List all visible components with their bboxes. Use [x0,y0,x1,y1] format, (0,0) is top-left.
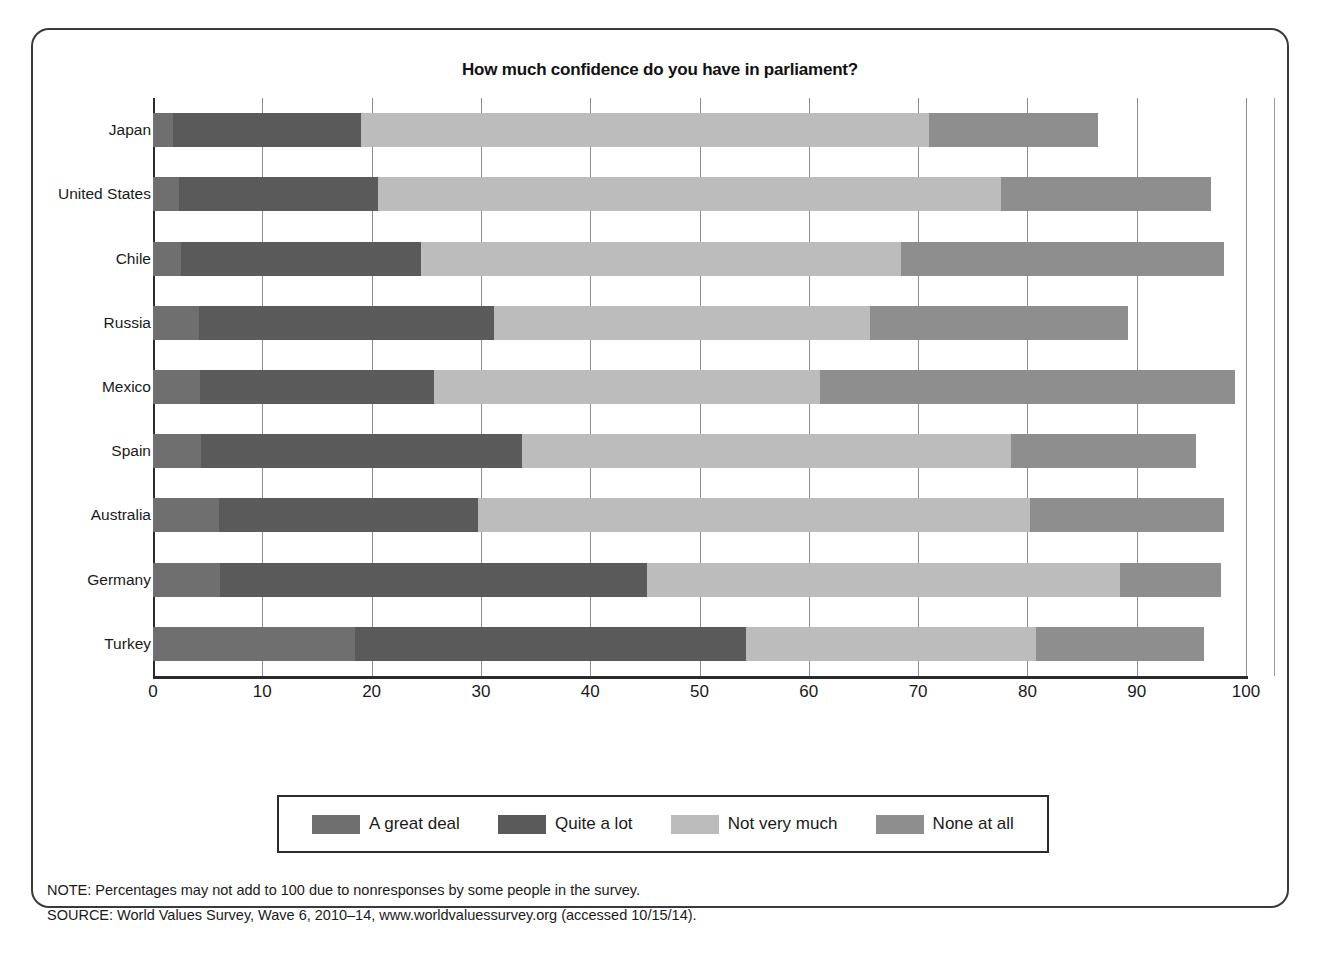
bar-segment [200,370,434,404]
plot-area: JapanUnited StatesChileRussiaMexicoSpain… [33,98,1291,718]
legend-item: A great deal [312,814,460,834]
x-tick-label-80: 80 [1018,682,1037,702]
bar-segment [153,177,179,211]
bar-row [153,563,1246,597]
chart-legend: A great dealQuite a lotNot very muchNone… [277,795,1049,853]
bar-segment [153,306,199,340]
bar-row [153,177,1246,211]
legend-label: None at all [933,814,1014,834]
bar-segment [201,434,522,468]
bar-row [153,627,1246,661]
category-label-turkey: Turkey [33,635,151,653]
bar-segment [199,306,494,340]
figure-panel: How much confidence do you have in parli… [31,28,1289,908]
x-tick-label-0: 0 [148,682,157,702]
category-axis-labels: JapanUnited StatesChileRussiaMexicoSpain… [33,98,151,676]
bar-segment [355,627,746,661]
bar-row [153,370,1246,404]
legend-swatch [876,815,924,834]
bar-segment [1001,177,1211,211]
x-tick-label-30: 30 [471,682,490,702]
bar-segment [378,177,1001,211]
bar-segment [901,242,1225,276]
bar-segment [647,563,1120,597]
category-label-spain: Spain [33,442,151,460]
bar-segment [361,113,929,147]
x-axis-tick-labels: 0102030405060708090100 [153,682,1246,712]
category-label-germany: Germany [33,571,151,589]
bar-segment [220,563,647,597]
footnote-line: NOTE: Percentages may not add to 100 due… [47,878,1147,903]
bar-segment [153,370,200,404]
legend-label: Quite a lot [555,814,633,834]
bar-segment [522,434,1011,468]
bar-segment [173,113,361,147]
bar-segment [478,498,1030,532]
legend-swatch [498,815,546,834]
legend-item: None at all [876,814,1014,834]
bar-segment [153,498,219,532]
category-label-mexico: Mexico [33,378,151,396]
bar-segment [153,242,181,276]
category-label-japan: Japan [33,121,151,139]
bar-segment [1120,563,1221,597]
chart-title: How much confidence do you have in parli… [33,60,1287,80]
bar-segment [153,434,201,468]
legend-label: A great deal [369,814,460,834]
bar-row [153,306,1246,340]
bar-segment [1011,434,1196,468]
bar-segment [494,306,870,340]
legend-item: Not very much [671,814,838,834]
bar-segment [746,627,1036,661]
bar-segment [421,242,901,276]
bar-segment [929,113,1098,147]
legend-swatch [312,815,360,834]
category-label-russia: Russia [33,314,151,332]
bar-segment [153,563,220,597]
legend-item: Quite a lot [498,814,633,834]
category-label-united-states: United States [33,185,151,203]
legend-label: Not very much [728,814,838,834]
bar-segment [1036,627,1204,661]
legend-swatch [671,815,719,834]
bar-segment [219,498,478,532]
x-axis-line [153,676,1248,679]
footnotes: NOTE: Percentages may not add to 100 due… [47,878,1147,928]
footnote-line: SOURCE: World Values Survey, Wave 6, 201… [47,903,1147,928]
x-tick-label-10: 10 [253,682,272,702]
gridline-100 [1246,98,1247,676]
bar-row [153,498,1246,532]
bar-segment [181,242,420,276]
bar-row [153,434,1246,468]
x-tick-label-60: 60 [799,682,818,702]
bar-segment [870,306,1128,340]
category-label-chile: Chile [33,250,151,268]
bar-segment [153,627,355,661]
bars-container [153,98,1246,676]
x-tick-label-40: 40 [581,682,600,702]
x-tick-label-100: 100 [1232,682,1260,702]
category-label-australia: Australia [33,506,151,524]
panel-right-rule [1274,98,1275,676]
bar-segment [179,177,378,211]
bar-row [153,242,1246,276]
bar-segment [153,113,173,147]
bar-segment [1030,498,1225,532]
x-tick-label-70: 70 [909,682,928,702]
x-tick-label-50: 50 [690,682,709,702]
x-tick-label-90: 90 [1127,682,1146,702]
bar-segment [820,370,1235,404]
bar-row [153,113,1246,147]
x-tick-label-20: 20 [362,682,381,702]
bar-segment [434,370,820,404]
